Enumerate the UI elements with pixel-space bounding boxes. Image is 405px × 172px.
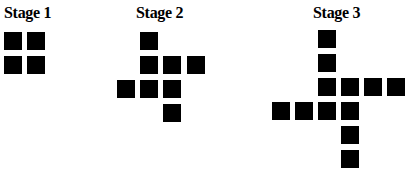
- stage-3-label: Stage 3: [313, 5, 360, 21]
- square: [318, 54, 336, 72]
- square: [364, 78, 382, 96]
- square: [341, 150, 359, 168]
- square: [272, 102, 290, 120]
- square: [318, 78, 336, 96]
- square: [341, 102, 359, 120]
- square: [387, 78, 405, 96]
- square: [318, 30, 336, 48]
- square: [318, 102, 336, 120]
- square: [341, 126, 359, 144]
- square: [295, 102, 313, 120]
- square: [341, 78, 359, 96]
